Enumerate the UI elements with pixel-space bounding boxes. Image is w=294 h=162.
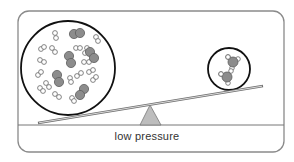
light-atom xyxy=(57,95,62,100)
light-atom xyxy=(72,99,77,104)
heavy-atom xyxy=(75,90,84,99)
low-density-container xyxy=(208,48,250,90)
light-atom xyxy=(94,75,99,80)
light-atom xyxy=(42,45,47,50)
hydrogen-molecule xyxy=(74,46,83,51)
light-atom xyxy=(219,72,224,77)
heavy-atom xyxy=(89,53,98,62)
hydrogen-molecule xyxy=(68,76,74,85)
light-atom xyxy=(226,55,231,60)
heavy-atom xyxy=(54,77,63,86)
light-atom xyxy=(41,89,46,94)
light-atom xyxy=(79,71,84,76)
light-atom xyxy=(39,70,44,75)
nitrogen-molecule xyxy=(69,28,84,38)
light-atom xyxy=(69,80,74,85)
light-atom xyxy=(53,50,58,55)
light-atom xyxy=(78,46,83,51)
pressure-label: low pressure xyxy=(0,130,294,142)
container-circle xyxy=(21,21,115,115)
heavy-atom xyxy=(75,28,84,37)
light-atom xyxy=(42,60,47,65)
heavy-atom xyxy=(66,58,75,67)
fulcrum-triangle xyxy=(140,105,161,125)
light-atom xyxy=(82,60,87,65)
high-density-container xyxy=(21,21,115,115)
light-atom xyxy=(54,36,59,41)
light-atom xyxy=(96,39,101,44)
light-atom xyxy=(91,68,96,73)
light-atom xyxy=(47,85,52,90)
light-atom xyxy=(53,31,58,36)
